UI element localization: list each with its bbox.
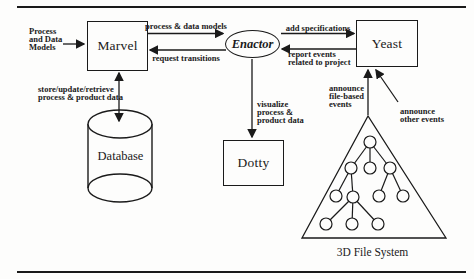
- process-data-models-label: process & data models: [144, 22, 228, 30]
- arrow-announce-other: [376, 70, 398, 102]
- announce-other-label: announce other events: [400, 107, 444, 123]
- yeast-label: Yeast: [372, 36, 402, 52]
- store-update-retrieve-label: store/update/retrieve process & product …: [38, 85, 123, 101]
- announce-file-based-label: announce file-based events: [329, 84, 364, 108]
- request-transitions-label: request transitions: [150, 54, 222, 62]
- bottom-rule: [17, 271, 466, 273]
- file-tree-nodes: [320, 136, 409, 230]
- file-system-label: 3D File System: [322, 246, 423, 258]
- input-models-label: Process and Data Models: [29, 27, 62, 51]
- top-rule: [17, 6, 466, 8]
- yeast-node: Yeast: [356, 20, 418, 67]
- file-system-triangle: [302, 116, 446, 238]
- enactor-label: Enactor: [232, 37, 274, 52]
- marvel-label: Marvel: [97, 38, 137, 54]
- report-events-label: report events related to project: [288, 50, 350, 66]
- add-specifications-label: add specifications: [279, 24, 357, 32]
- database-label: Database: [90, 149, 151, 164]
- diagram-canvas: Marvel Yeast Dotty Enactor: [0, 0, 474, 279]
- file-tree-edges: [326, 142, 403, 224]
- marvel-node: Marvel: [87, 21, 148, 71]
- dotty-label: Dotty: [238, 155, 270, 171]
- visualize-label: visualize process & product data: [257, 100, 304, 124]
- enactor-node: Enactor: [225, 30, 280, 58]
- dotty-node: Dotty: [223, 140, 284, 186]
